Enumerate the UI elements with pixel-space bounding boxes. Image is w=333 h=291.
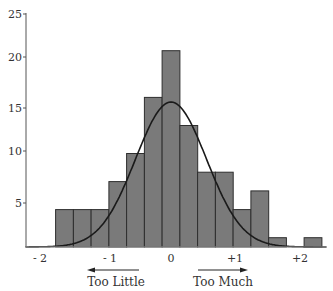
y-tick-label: 15: [8, 102, 22, 115]
histogram-bar: [215, 172, 233, 247]
x-tick-label: - 2: [33, 252, 47, 265]
too-little-annotation: Too Little: [87, 268, 145, 290]
x-tick-label: +1: [227, 252, 243, 265]
x-tick-label: - 1: [103, 252, 117, 265]
histogram-bar: [251, 191, 269, 247]
histogram-bar: [198, 172, 216, 247]
left-arrowhead-icon: [87, 268, 95, 273]
histogram-bars: [56, 51, 322, 247]
right-arrowhead-icon: [240, 268, 248, 273]
histogram-bar: [180, 126, 198, 248]
x-axis-ticks: - 2- 10+1+2: [33, 252, 308, 265]
y-tick-label: 5: [15, 197, 22, 210]
histogram-bar: [162, 51, 180, 247]
x-tick-label: +2: [292, 252, 308, 265]
too-little-label: Too Little: [87, 275, 145, 289]
y-tick-label: 10: [8, 145, 22, 158]
histogram-bar: [109, 182, 127, 248]
histogram-chart: 510152025 - 2- 10+1+2 Too Little Too Muc…: [0, 0, 333, 291]
x-tick-label: 0: [168, 252, 175, 265]
y-tick-label: 25: [8, 8, 22, 21]
histogram-bar: [127, 154, 145, 248]
too-much-label: Too Much: [193, 275, 253, 289]
y-tick-label: 20: [8, 51, 22, 64]
y-axis-ticks: 510152025: [8, 8, 26, 210]
histogram-bar: [56, 210, 74, 247]
histogram-bar: [304, 238, 322, 247]
too-much-annotation: Too Much: [193, 268, 253, 290]
